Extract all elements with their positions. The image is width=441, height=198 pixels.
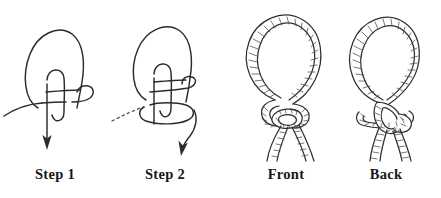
panel-step-1: Step 1 bbox=[0, 0, 110, 198]
panel-front: Front bbox=[231, 0, 341, 198]
panel-label-step-1: Step 1 bbox=[0, 166, 110, 183]
step-1-illustration bbox=[0, 4, 110, 162]
panel-label-front: Front bbox=[231, 166, 341, 183]
knot-diagram-figure: Step 1 Step 2 bbox=[0, 0, 441, 198]
step-2-illustration bbox=[110, 4, 220, 162]
panel-back: Back bbox=[331, 0, 441, 198]
panel-step-2: Step 2 bbox=[110, 0, 220, 198]
back-knot-illustration bbox=[331, 4, 441, 162]
front-knot-illustration bbox=[231, 4, 341, 162]
panel-label-step-2: Step 2 bbox=[110, 166, 220, 183]
panel-label-back: Back bbox=[331, 166, 441, 183]
